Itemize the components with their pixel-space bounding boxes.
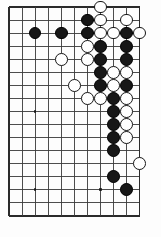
black-stone[interactable] [107,105,120,118]
white-stone[interactable] [81,92,94,105]
white-stone[interactable] [55,53,68,66]
black-stone[interactable] [107,131,120,144]
white-stone[interactable] [94,1,107,14]
black-stone[interactable] [81,27,94,40]
white-stone[interactable] [68,79,81,92]
go-board-figure [0,0,161,237]
white-stone[interactable] [120,14,133,27]
white-stone[interactable] [94,27,107,40]
black-stone[interactable] [120,79,133,92]
black-stone[interactable] [81,14,94,27]
black-stone[interactable] [55,27,68,40]
black-stone[interactable] [94,40,107,53]
go-board-surface[interactable] [0,0,161,237]
black-stone[interactable] [94,53,107,66]
black-stone[interactable] [120,53,133,66]
black-stone[interactable] [120,40,133,53]
white-stone[interactable] [133,157,146,170]
white-stone[interactable] [94,92,107,105]
black-stone[interactable] [120,183,133,196]
white-stone[interactable] [94,14,107,27]
black-stone[interactable] [107,170,120,183]
white-stone[interactable] [120,66,133,79]
black-stone[interactable] [107,92,120,105]
white-stone[interactable] [120,118,133,131]
white-stone[interactable] [81,40,94,53]
white-stone[interactable] [81,53,94,66]
black-stone[interactable] [94,79,107,92]
white-stone[interactable] [107,66,120,79]
white-stone[interactable] [107,79,120,92]
white-stone[interactable] [107,27,120,40]
white-stone[interactable] [120,105,133,118]
hoshi-lower-right-point [99,188,102,191]
white-stone[interactable] [120,92,133,105]
white-stone[interactable] [120,131,133,144]
black-stone[interactable] [107,144,120,157]
black-stone[interactable] [94,66,107,79]
black-stone[interactable] [107,118,120,131]
